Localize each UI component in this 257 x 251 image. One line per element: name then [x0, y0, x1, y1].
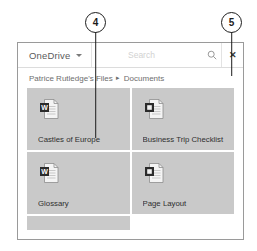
- file-tile-partial[interactable]: [27, 216, 130, 230]
- word-document-icon: W: [39, 98, 60, 120]
- file-name-label: Castles of Europe: [38, 135, 124, 144]
- callout-marker-5: 5: [221, 12, 242, 33]
- breadcrumb-item-documents[interactable]: Documents: [124, 74, 164, 83]
- callout-number-5: 5: [221, 12, 242, 33]
- file-name-label: Page Layout: [143, 199, 229, 208]
- figure-canvas: 4 5 OneDrive ✕: [0, 0, 257, 251]
- breadcrumb-item-root[interactable]: Patrice Rutledge's Files: [29, 74, 113, 83]
- file-grid: W Castles of Europe: [18, 88, 243, 214]
- breadcrumb-separator-icon: ▸: [116, 74, 120, 82]
- onedrive-file-picker-dialog: OneDrive ✕ Patrice Rutledge's Files ▸: [17, 42, 244, 240]
- callout-leader-line-5: [231, 32, 233, 76]
- header-spacer: [92, 43, 128, 67]
- file-tile-business-trip-checklist[interactable]: Business Trip Checklist: [132, 88, 235, 150]
- breadcrumb: Patrice Rutledge's Files ▸ Documents: [18, 68, 243, 88]
- callout-number-4: 4: [85, 12, 106, 33]
- dialog-header: OneDrive ✕: [18, 43, 243, 68]
- chevron-down-icon: [76, 54, 82, 57]
- file-tile-glossary[interactable]: W Glossary: [27, 152, 130, 214]
- svg-text:W: W: [41, 168, 48, 175]
- svg-text:W: W: [41, 104, 48, 111]
- document-icon: [144, 162, 165, 184]
- document-icon: [144, 98, 165, 120]
- file-tile-page-layout[interactable]: Page Layout: [132, 152, 235, 214]
- file-grid-next-row-partial: [18, 214, 243, 230]
- search-input[interactable]: [128, 50, 203, 60]
- search-icon[interactable]: [203, 50, 221, 60]
- file-name-label: Business Trip Checklist: [143, 135, 229, 144]
- onedrive-brand-menu[interactable]: OneDrive: [18, 43, 92, 67]
- word-document-icon: W: [39, 162, 60, 184]
- close-icon: ✕: [229, 50, 237, 60]
- file-tile-castles-of-europe[interactable]: W Castles of Europe: [27, 88, 130, 150]
- callout-leader-line-4: [95, 32, 97, 138]
- file-tile-partial-empty: [132, 216, 235, 230]
- onedrive-brand-label: OneDrive: [29, 50, 70, 61]
- callout-marker-4: 4: [85, 12, 106, 33]
- search-field-wrapper: [128, 43, 221, 67]
- file-name-label: Glossary: [38, 199, 124, 208]
